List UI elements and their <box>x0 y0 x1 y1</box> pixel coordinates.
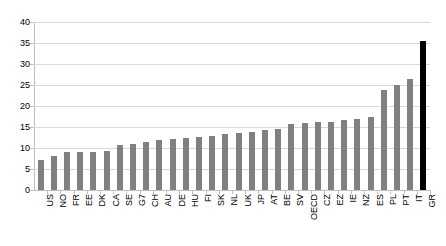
x-axis-tick-label: IE <box>348 194 358 203</box>
bar <box>38 160 44 190</box>
bar <box>90 152 96 190</box>
x-axis-tick-label: FI <box>203 194 213 202</box>
bar <box>368 117 374 191</box>
x-axis-tick-label: EE <box>84 194 94 206</box>
bar-chart: 0510152025303540 USNOFREEDKCASEG7CHAUDEH… <box>0 0 446 246</box>
x-axis-tick-label: HU <box>190 194 200 207</box>
bar <box>302 123 308 190</box>
bar <box>143 142 149 190</box>
bar <box>420 41 426 190</box>
x-axis-tick-label: CH <box>150 194 160 207</box>
x-axis-tick-label: SK <box>216 194 226 206</box>
bar <box>407 79 413 190</box>
x-axis-tick-label: IT <box>414 194 424 202</box>
y-axis-tick-label: 25 <box>2 81 30 90</box>
x-axis-tick-label: PL <box>388 194 398 205</box>
bar <box>262 130 268 190</box>
x-axis-tick-label: JP <box>256 194 266 205</box>
bar <box>170 139 176 190</box>
x-axis-tick-label: EZ <box>335 194 345 206</box>
x-axis-tick-label: DK <box>97 194 107 207</box>
bar <box>288 124 294 190</box>
bar <box>64 152 70 190</box>
bar <box>222 134 228 190</box>
bar <box>341 120 347 190</box>
y-axis-tick-label: 0 <box>2 186 30 195</box>
x-axis-tick-label: AU <box>163 194 173 207</box>
bar <box>315 122 321 190</box>
y-axis-tick-label: 35 <box>2 39 30 48</box>
bar <box>196 137 202 190</box>
x-axis-tick-label: FR <box>71 194 81 206</box>
bar <box>236 133 242 190</box>
x-axis-tick-label: G7 <box>137 194 147 206</box>
x-axis-tick-label: CA <box>111 194 121 207</box>
x-axis-tick-label: NO <box>58 194 68 208</box>
x-axis-tick-label: ES <box>375 194 385 206</box>
y-axis-tick-label: 20 <box>2 102 30 111</box>
bar <box>117 145 123 190</box>
x-axis-tick-label: PT <box>401 194 411 206</box>
x-axis-tick-label: NL <box>229 194 239 206</box>
x-axis-tick-label: UK <box>243 194 253 207</box>
y-axis-tick-label: 30 <box>2 60 30 69</box>
y-axis-tick-label: 15 <box>2 123 30 132</box>
x-axis-tick-label: DE <box>177 194 187 207</box>
bar <box>104 151 110 190</box>
y-axis-labels: 0510152025303540 <box>0 0 30 246</box>
x-axis-labels: USNOFREEDKCASEG7CHAUDEHUFISKNLUKJPATBESV… <box>34 194 430 246</box>
bar-series <box>34 22 430 190</box>
plot-area <box>34 22 430 190</box>
bar <box>275 129 281 190</box>
x-axis-tick-label: US <box>45 194 55 207</box>
bar <box>156 140 162 190</box>
bar <box>77 152 83 190</box>
y-axis-tick-label: 10 <box>2 144 30 153</box>
y-axis-tick-label: 40 <box>2 18 30 27</box>
x-axis-tick-label: SV <box>295 194 305 206</box>
x-axis-tick-label: NZ <box>361 194 371 206</box>
y-axis-tick-label: 5 <box>2 165 30 174</box>
bar <box>249 132 255 190</box>
x-axis-tick-label: GR <box>427 194 437 208</box>
x-axis-tick-label: SE <box>124 194 134 206</box>
bar <box>381 90 387 190</box>
bar <box>209 136 215 190</box>
bar <box>394 85 400 190</box>
x-axis-tick-label: AT <box>269 194 279 205</box>
bar <box>51 156 57 190</box>
bar <box>328 122 334 190</box>
x-axis-tick-label: CZ <box>322 194 332 206</box>
x-axis-tick-label: BE <box>282 194 292 206</box>
x-axis-tick-label: OECD <box>309 194 319 220</box>
bar <box>130 144 136 190</box>
bar <box>183 138 189 191</box>
bar <box>354 119 360 190</box>
